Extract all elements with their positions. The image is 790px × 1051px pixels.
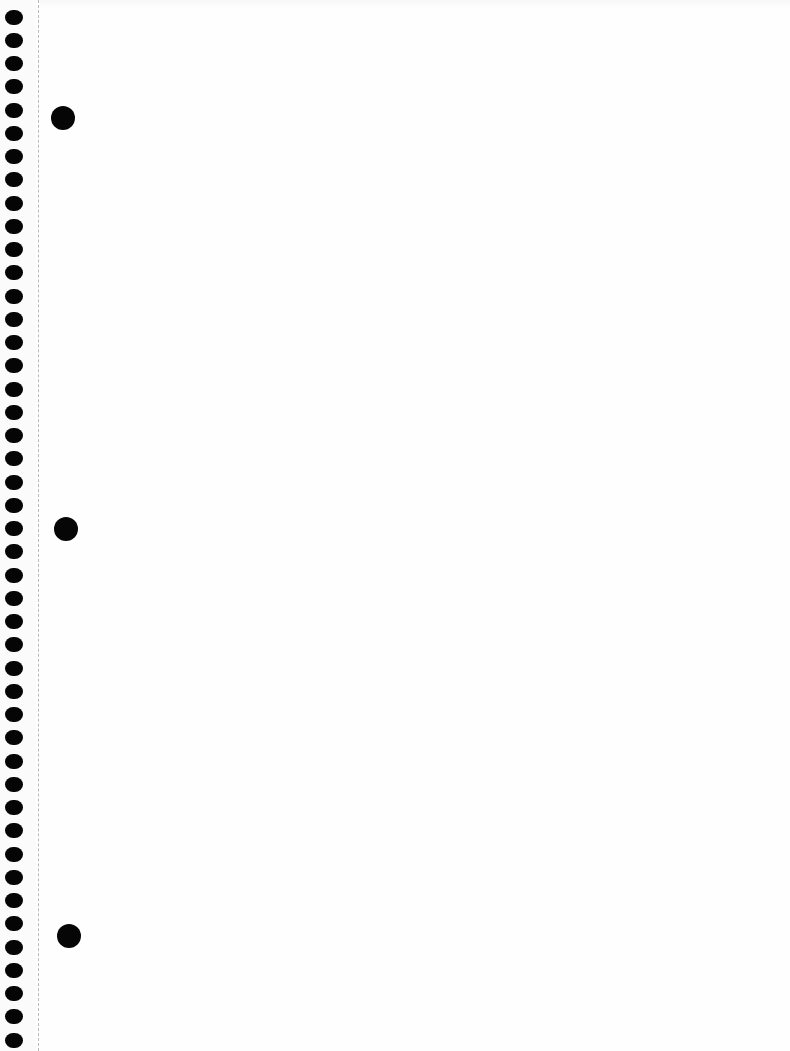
spiral-hole-icon bbox=[5, 637, 23, 652]
spiral-hole-icon bbox=[5, 847, 23, 862]
spiral-hole-icon bbox=[5, 1033, 23, 1048]
spiral-hole-icon bbox=[5, 963, 23, 978]
spiral-hole-icon bbox=[5, 33, 23, 48]
spiral-hole-icon bbox=[5, 172, 23, 187]
spiral-hole-icon bbox=[5, 777, 23, 792]
spiral-hole-icon bbox=[5, 405, 23, 420]
spiral-hole-icon bbox=[5, 823, 23, 838]
spiral-hole-icon bbox=[5, 544, 23, 559]
notebook-page bbox=[0, 0, 790, 1051]
spiral-hole-icon bbox=[5, 428, 23, 443]
binder-hole-icon bbox=[57, 924, 81, 948]
spiral-hole-icon bbox=[5, 730, 23, 745]
spiral-hole-icon bbox=[5, 800, 23, 815]
spiral-hole-icon bbox=[5, 242, 23, 257]
spiral-hole-icon bbox=[5, 1009, 23, 1024]
spiral-hole-icon bbox=[5, 893, 23, 908]
spiral-hole-icon bbox=[5, 940, 23, 955]
spiral-hole-icon bbox=[5, 916, 23, 931]
spiral-hole-icon bbox=[5, 10, 23, 25]
spiral-hole-icon bbox=[5, 568, 23, 583]
spiral-hole-icon bbox=[5, 614, 23, 629]
spiral-hole-icon bbox=[5, 265, 23, 280]
spiral-hole-icon bbox=[5, 521, 23, 536]
perforation-line bbox=[38, 0, 39, 1051]
spiral-hole-icon bbox=[5, 219, 23, 234]
binder-hole-icon bbox=[51, 106, 75, 130]
spiral-hole-icon bbox=[5, 475, 23, 490]
spiral-hole-icon bbox=[5, 149, 23, 164]
spiral-hole-icon bbox=[5, 79, 23, 94]
spiral-hole-icon bbox=[5, 661, 23, 676]
spiral-hole-icon bbox=[5, 986, 23, 1001]
spiral-hole-icon bbox=[5, 870, 23, 885]
spiral-hole-icon bbox=[5, 289, 23, 304]
spiral-hole-icon bbox=[5, 358, 23, 373]
spiral-hole-icon bbox=[5, 312, 23, 327]
scan-bleed-through bbox=[40, 0, 790, 8]
spiral-hole-icon bbox=[5, 498, 23, 513]
binder-hole-icon bbox=[54, 517, 78, 541]
spiral-hole-icon bbox=[5, 196, 23, 211]
spiral-hole-icon bbox=[5, 335, 23, 350]
spiral-hole-icon bbox=[5, 707, 23, 722]
spiral-hole-icon bbox=[5, 451, 23, 466]
spiral-hole-icon bbox=[5, 754, 23, 769]
spiral-hole-icon bbox=[5, 103, 23, 118]
spiral-hole-icon bbox=[5, 591, 23, 606]
spiral-hole-icon bbox=[5, 126, 23, 141]
spiral-hole-icon bbox=[5, 56, 23, 71]
spiral-hole-icon bbox=[5, 382, 23, 397]
spiral-hole-icon bbox=[5, 684, 23, 699]
